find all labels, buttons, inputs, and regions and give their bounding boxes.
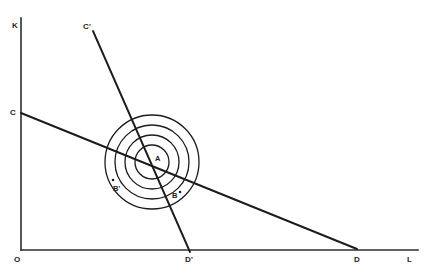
isocost-d-prime-label: D': [185, 256, 193, 264]
point-b-label: B: [172, 192, 178, 200]
point-marker-bprime: [112, 179, 115, 182]
k-axis-label: K: [12, 22, 18, 30]
isocost-lines: [21, 31, 357, 252]
isoquant-curve-2: [115, 125, 189, 199]
isocost-c-label: C: [10, 109, 16, 117]
origin-label: O: [14, 256, 20, 264]
isocost-line-CprimeDprime: [93, 31, 190, 252]
l-axis-label: L: [407, 256, 412, 264]
isoquant-curves: [105, 115, 199, 209]
point-a-label: A: [155, 155, 161, 163]
diagram-canvas: K L O C D C' D' A B' B: [0, 0, 430, 274]
point-marker-b: [179, 191, 182, 194]
point-b-prime-label: B': [113, 185, 121, 193]
isoquant-curve-3: [125, 135, 179, 189]
diagram-svg: [0, 0, 430, 274]
isocost-c-prime-label: C': [83, 23, 91, 31]
isoquant-curve-1: [105, 115, 199, 209]
isocost-d-label: D: [354, 256, 360, 264]
